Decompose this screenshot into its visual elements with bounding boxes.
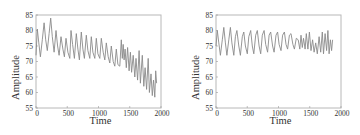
signal-line (36, 18, 157, 97)
y-tick-label: 75 (26, 42, 34, 51)
y-tick-label: 55 (206, 104, 214, 113)
y-axis-label: Amplitude (10, 55, 21, 100)
x-tick-label: 500 (243, 109, 255, 118)
signal-line (216, 27, 333, 55)
x-tick-label: 1500 (123, 109, 138, 118)
plot-frame (216, 15, 341, 108)
x-tick-label: 0 (215, 109, 219, 118)
x-tick-label: 2000 (155, 109, 170, 118)
y-tick-label: 65 (206, 73, 214, 82)
y-tick-label: 60 (26, 88, 34, 97)
y-axis-label: Amplitude (190, 55, 201, 100)
x-tick-label: 1500 (303, 109, 318, 118)
x-tick-label: 0 (35, 109, 39, 118)
y-tick-label: 75 (206, 42, 214, 51)
y-tick-label: 85 (26, 11, 34, 20)
y-tick-label: 65 (26, 73, 34, 82)
y-tick-label: 70 (26, 57, 34, 66)
right-amplitude-plot: 556065707580850500100015002000TimeAmplit… (180, 0, 360, 135)
x-axis-label: Time (90, 115, 112, 126)
chart-left: 556065707580850500100015002000TimeAmplit… (0, 0, 180, 135)
y-tick-label: 55 (26, 104, 34, 113)
chart-right: 556065707580850500100015002000TimeAmplit… (180, 0, 360, 135)
y-tick-label: 70 (206, 57, 214, 66)
y-tick-label: 80 (26, 26, 34, 35)
y-tick-label: 85 (206, 11, 214, 20)
x-tick-label: 500 (63, 109, 75, 118)
left-amplitude-plot: 556065707580850500100015002000TimeAmplit… (0, 0, 180, 135)
x-axis-label: Time (270, 115, 292, 126)
y-tick-label: 80 (206, 26, 214, 35)
x-tick-label: 2000 (335, 109, 350, 118)
y-tick-label: 60 (206, 88, 214, 97)
